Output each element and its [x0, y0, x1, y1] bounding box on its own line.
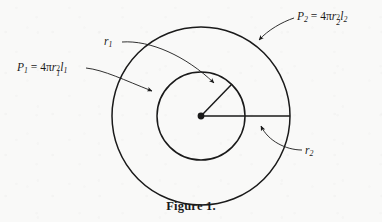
concentric-circles-diagram	[0, 0, 382, 222]
label-p1-expression: P1 = 4πr21l1	[17, 62, 67, 74]
p1-symbol: P	[17, 61, 24, 73]
p1-length-subscript: 1	[63, 66, 67, 75]
figure-page: P1 = 4πr21l1 P2 = 4πr22l2 r1 r2 Figure 1…	[0, 0, 382, 222]
p1-equals: =	[28, 61, 40, 73]
p1-leader-line	[86, 68, 152, 91]
label-r2: r2	[305, 145, 313, 157]
r2-subscript: 2	[309, 149, 313, 158]
p2-symbol: P	[297, 10, 304, 22]
p2-length-subscript: 2	[343, 15, 347, 24]
p2-equals: =	[308, 10, 320, 22]
r1-subscript: 1	[108, 40, 112, 49]
label-r1: r1	[104, 36, 112, 48]
r2-leader-line	[261, 126, 302, 150]
figure-caption: Figure 1.	[0, 199, 382, 214]
label-p2-expression: P2 = 4πr22l2	[297, 11, 347, 23]
inner-radius-line	[201, 84, 232, 116]
p2-leader-line	[259, 18, 294, 40]
center-point	[198, 113, 205, 120]
r1-leader-line	[122, 42, 214, 83]
